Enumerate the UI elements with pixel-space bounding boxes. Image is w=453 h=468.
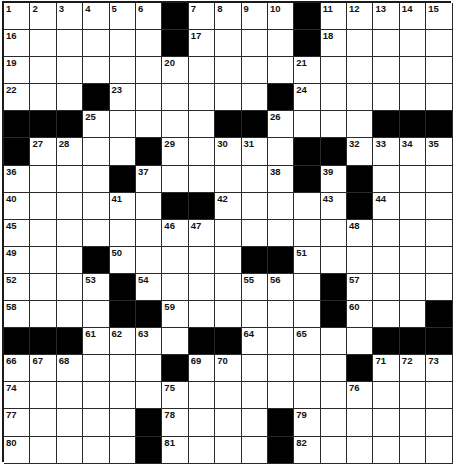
crossword-cell[interactable] [30,57,56,84]
crossword-cell[interactable]: 28 [57,138,83,165]
crossword-cell[interactable]: 35 [426,138,452,165]
crossword-cell[interactable]: 65 [294,328,320,355]
crossword-cell[interactable] [242,437,268,464]
crossword-cell[interactable] [400,84,426,111]
crossword-cell[interactable] [83,138,109,165]
crossword-cell[interactable] [110,57,136,84]
crossword-cell[interactable] [110,382,136,409]
crossword-cell[interactable]: 7 [189,3,215,30]
crossword-cell[interactable] [162,166,188,193]
crossword-cell[interactable] [373,247,399,274]
crossword-cell[interactable] [57,382,83,409]
crossword-cell[interactable] [373,84,399,111]
crossword-cell[interactable] [426,57,452,84]
crossword-cell[interactable]: 13 [373,3,399,30]
crossword-cell[interactable] [400,409,426,436]
crossword-cell[interactable]: 59 [162,301,188,328]
crossword-cell[interactable] [83,382,109,409]
crossword-cell[interactable] [136,382,162,409]
crossword-cell[interactable] [83,437,109,464]
crossword-cell[interactable] [215,220,241,247]
crossword-cell[interactable]: 68 [57,355,83,382]
crossword-cell[interactable]: 53 [83,274,109,301]
crossword-cell[interactable]: 12 [347,3,373,30]
crossword-cell[interactable]: 23 [110,84,136,111]
crossword-cell[interactable]: 79 [294,409,320,436]
crossword-cell[interactable] [162,84,188,111]
crossword-cell[interactable] [268,355,294,382]
crossword-cell[interactable] [215,409,241,436]
crossword-cell[interactable] [400,30,426,57]
crossword-cell[interactable]: 29 [162,138,188,165]
crossword-cell[interactable] [321,355,347,382]
crossword-cell[interactable] [110,220,136,247]
crossword-cell[interactable]: 17 [189,30,215,57]
crossword-cell[interactable] [57,57,83,84]
crossword-cell[interactable] [136,30,162,57]
crossword-cell[interactable]: 78 [162,409,188,436]
crossword-cell[interactable] [294,111,320,138]
crossword-cell[interactable] [189,166,215,193]
crossword-cell[interactable] [242,355,268,382]
crossword-cell[interactable] [400,166,426,193]
crossword-cell[interactable] [57,220,83,247]
crossword-cell[interactable] [57,437,83,464]
crossword-cell[interactable]: 37 [136,166,162,193]
crossword-cell[interactable]: 11 [321,3,347,30]
crossword-cell[interactable]: 36 [4,166,30,193]
crossword-cell[interactable]: 3 [57,3,83,30]
crossword-cell[interactable] [30,84,56,111]
crossword-cell[interactable]: 4 [83,3,109,30]
crossword-cell[interactable] [321,409,347,436]
crossword-cell[interactable] [268,220,294,247]
crossword-cell[interactable]: 51 [294,247,320,274]
crossword-cell[interactable]: 30 [215,138,241,165]
crossword-cell[interactable] [57,274,83,301]
crossword-cell[interactable] [373,57,399,84]
crossword-cell[interactable]: 44 [373,193,399,220]
crossword-cell[interactable] [268,138,294,165]
crossword-cell[interactable] [426,409,452,436]
crossword-cell[interactable] [189,138,215,165]
crossword-cell[interactable] [57,166,83,193]
crossword-cell[interactable] [347,111,373,138]
crossword-cell[interactable]: 16 [4,30,30,57]
crossword-cell[interactable]: 55 [242,274,268,301]
crossword-cell[interactable]: 10 [268,3,294,30]
crossword-cell[interactable] [83,220,109,247]
crossword-cell[interactable] [373,437,399,464]
crossword-cell[interactable] [400,220,426,247]
crossword-cell[interactable] [426,437,452,464]
crossword-cell[interactable] [347,437,373,464]
crossword-cell[interactable]: 1 [4,3,30,30]
crossword-cell[interactable] [268,328,294,355]
crossword-cell[interactable]: 56 [268,274,294,301]
crossword-cell[interactable]: 81 [162,437,188,464]
crossword-cell[interactable] [373,166,399,193]
crossword-cell[interactable] [215,30,241,57]
crossword-cell[interactable]: 8 [215,3,241,30]
crossword-cell[interactable]: 5 [110,3,136,30]
crossword-cell[interactable]: 73 [426,355,452,382]
crossword-cell[interactable]: 40 [4,193,30,220]
crossword-cell[interactable]: 9 [242,3,268,30]
crossword-cell[interactable] [30,437,56,464]
crossword-cell[interactable] [347,84,373,111]
crossword-cell[interactable]: 67 [30,355,56,382]
crossword-cell[interactable] [162,111,188,138]
crossword-cell[interactable] [30,247,56,274]
crossword-cell[interactable] [242,166,268,193]
crossword-cell[interactable] [426,84,452,111]
crossword-cell[interactable]: 43 [321,193,347,220]
crossword-cell[interactable] [189,382,215,409]
crossword-cell[interactable] [294,220,320,247]
crossword-cell[interactable] [136,84,162,111]
crossword-cell[interactable] [189,301,215,328]
crossword-cell[interactable]: 34 [400,138,426,165]
crossword-cell[interactable] [215,301,241,328]
crossword-cell[interactable] [30,166,56,193]
crossword-cell[interactable] [110,30,136,57]
crossword-cell[interactable] [268,382,294,409]
crossword-cell[interactable] [83,409,109,436]
crossword-cell[interactable]: 71 [373,355,399,382]
